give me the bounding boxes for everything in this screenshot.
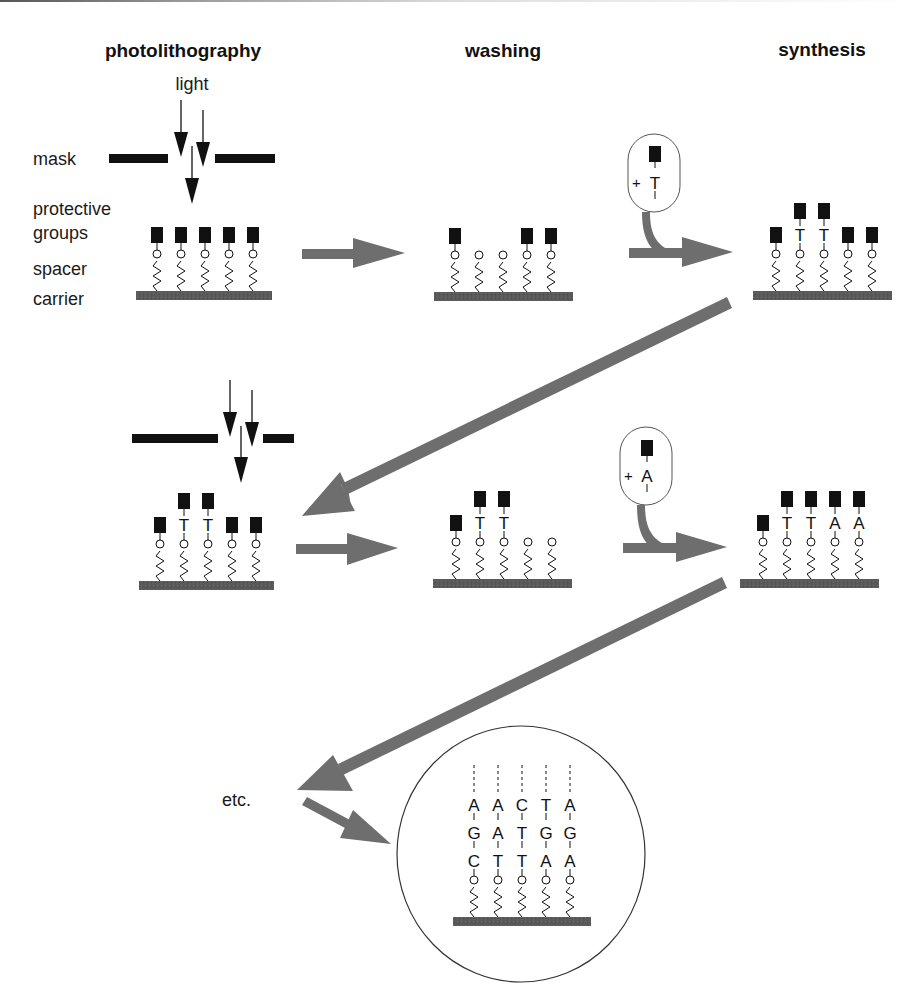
nucleotide: A — [492, 796, 504, 815]
nucleotide: A — [540, 852, 552, 871]
label-mask: mask — [33, 149, 77, 169]
reagent-plus: + — [632, 174, 641, 191]
light-arrows-row2 — [223, 380, 259, 483]
carrier-bar — [453, 917, 591, 926]
strand-panel-row1-washing — [434, 228, 573, 301]
header-synthesis: synthesis — [778, 39, 866, 60]
strand: T — [781, 491, 793, 579]
carrier-bar — [740, 579, 879, 588]
protective-group — [770, 227, 782, 243]
strand: T — [498, 491, 510, 579]
protective-group — [250, 517, 262, 533]
protective-group — [449, 228, 461, 244]
carrier-bar — [136, 291, 272, 300]
nucleotide: C — [516, 796, 528, 815]
carrier-bar — [434, 292, 573, 301]
arrow-etc-to-final — [302, 797, 391, 844]
nucleotide: T — [203, 516, 213, 535]
strand — [175, 227, 187, 291]
strand-panel-row2-synthesis: TTAA — [740, 491, 879, 588]
strand — [475, 251, 483, 292]
strand — [521, 228, 533, 292]
strand: A — [829, 491, 841, 579]
strand-panel-row2-washing: TT — [433, 491, 572, 588]
label-groups: groups — [33, 223, 88, 243]
carrier-bar — [139, 581, 274, 590]
nucleotide: G — [563, 824, 576, 843]
protective-group — [154, 517, 166, 533]
nucleotide: G — [467, 824, 480, 843]
nucleotide: A — [564, 852, 576, 871]
protective-group — [521, 228, 533, 244]
reagent-base: A — [641, 467, 653, 486]
strand — [250, 517, 262, 581]
strand — [223, 227, 235, 291]
strand: T — [202, 493, 214, 581]
nucleotide: T — [499, 514, 509, 533]
nucleotide: T — [782, 514, 792, 533]
nucleotide: A — [492, 824, 504, 843]
strand: A — [853, 491, 865, 579]
carrier-bar — [433, 579, 572, 588]
protective-group — [199, 227, 211, 243]
protective-group — [178, 493, 190, 509]
photolithography-diagram: photolithography washing synthesis light… — [0, 0, 916, 996]
protective-group — [202, 493, 214, 509]
strand-panel-row1-photolithography — [136, 227, 272, 300]
strand — [524, 538, 532, 579]
nucleotide: A — [829, 514, 841, 533]
strand: T — [178, 493, 190, 581]
protective-group — [226, 517, 238, 533]
arrow-to-synthesis-row2 — [623, 505, 727, 562]
protective-group — [175, 227, 187, 243]
nucleotide: T — [475, 514, 485, 533]
strand: T — [474, 491, 486, 579]
nucleotide: C — [468, 852, 480, 871]
arrow-diagonal-2 — [297, 577, 727, 791]
strand — [199, 227, 211, 291]
strand: T — [794, 203, 806, 291]
protective-group — [805, 491, 817, 507]
strand — [151, 227, 163, 291]
nucleotide: A — [564, 796, 576, 815]
nucleotide: T — [819, 226, 829, 245]
protective-group — [829, 491, 841, 507]
protective-group — [474, 491, 486, 507]
nucleotide: T — [493, 852, 503, 871]
strand — [499, 251, 507, 292]
protective-group — [781, 491, 793, 507]
nucleotide: T — [179, 516, 189, 535]
nucleotide: T — [541, 796, 551, 815]
protective-group — [498, 491, 510, 507]
carrier-bar — [753, 291, 892, 300]
arrow-to-synthesis-row1 — [629, 212, 733, 267]
process-arrows — [296, 212, 733, 844]
strand — [154, 517, 166, 581]
strand — [548, 538, 556, 579]
strand: T — [818, 203, 830, 291]
strand — [770, 227, 782, 291]
strand — [449, 228, 461, 292]
nucleotide: A — [468, 796, 480, 815]
nucleotide: A — [853, 514, 865, 533]
strand — [866, 227, 878, 291]
protective-group — [247, 227, 259, 243]
strand — [842, 227, 854, 291]
protective-group — [151, 227, 163, 243]
strand: CGA — [467, 764, 480, 917]
reagent-capsule-T: + T — [628, 134, 680, 212]
mask-row2 — [132, 434, 294, 443]
header-photolithography: photolithography — [105, 40, 262, 61]
reagent-capsule-A: + A — [620, 427, 672, 505]
strand-panel-row1-synthesis: TT — [753, 203, 892, 300]
label-carrier: carrier — [33, 289, 84, 309]
protective-group — [818, 203, 830, 219]
arrow-to-washing-row2 — [296, 533, 398, 565]
strand: TAA — [492, 764, 504, 917]
nucleotide: T — [795, 226, 805, 245]
arrow-to-washing-row1 — [302, 238, 405, 268]
protective-group — [450, 515, 462, 531]
protective-group — [223, 227, 235, 243]
nucleotide: G — [539, 824, 552, 843]
strand — [545, 228, 557, 292]
